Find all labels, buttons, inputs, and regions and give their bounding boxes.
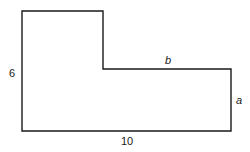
right-side-label: a (236, 94, 242, 106)
bottom-side-label: 10 (121, 135, 133, 147)
l-shape-outline (22, 11, 231, 131)
step-top-label: b (165, 54, 171, 66)
left-side-label: 6 (9, 67, 15, 79)
l-shape-diagram: 6 b a 10 (0, 0, 250, 152)
